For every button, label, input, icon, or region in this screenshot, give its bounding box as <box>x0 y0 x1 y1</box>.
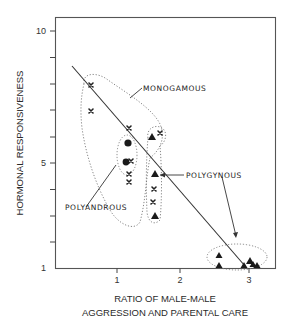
x-axis-title-line1: RATIO OF MALE-MALE <box>114 293 216 304</box>
y-axis-ticks <box>50 31 56 242</box>
annotation-polygynous: POLYGYNOUS <box>186 171 242 180</box>
annotation-leaders <box>86 88 236 236</box>
y-tick-label-10: 10 <box>36 26 46 36</box>
regression-line <box>72 66 245 266</box>
plot-frame <box>56 18 276 269</box>
annotation-monogamous: MONOGAMOUS <box>143 84 206 93</box>
y-tick-label-1: 1 <box>41 263 46 273</box>
annotation-polyandrous: POLYANDROUS <box>65 203 127 212</box>
arrowhead-polygynous-bottom <box>233 232 238 238</box>
scatter-chart: 10 5 1 1 2 3 HORMONAL RESPONSIVENESS RAT… <box>0 0 296 334</box>
polygynous-points <box>148 133 261 268</box>
x-tick-label-3: 3 <box>246 275 251 285</box>
y-tick-label-5: 5 <box>41 158 46 168</box>
x-tick-label-1: 1 <box>114 275 119 285</box>
arrowhead-polygynous <box>160 173 165 178</box>
x-axis-title-line2: AGGRESSION AND PARENTAL CARE <box>82 307 248 318</box>
figure-caption-remnant <box>40 322 290 332</box>
y-axis-title: HORMONAL RESPONSIVENESS <box>14 71 25 216</box>
x-tick-label-2: 2 <box>177 275 182 285</box>
